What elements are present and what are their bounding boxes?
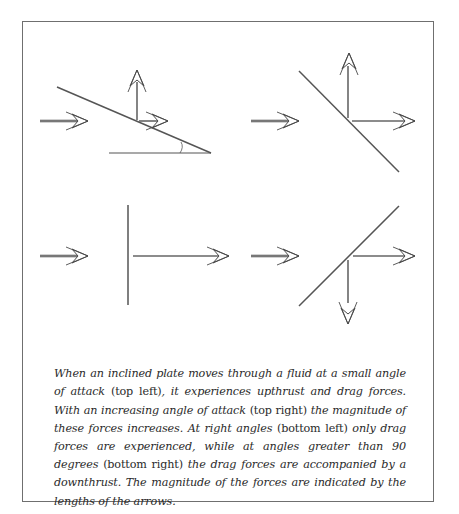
flow-arrow-icon [40,247,88,265]
drag-arrow-icon [353,247,415,265]
drag-arrow-icon [352,112,415,130]
upthrust-arrow-icon [128,70,146,120]
panel-top-right [251,53,415,172]
downthrust-arrow-icon [339,260,357,324]
flow-arrow-icon [251,112,299,130]
panel-top-left [40,70,211,153]
panel-bottom-left [40,205,229,305]
angle-arc [180,142,182,153]
flow-arrow-icon [251,247,299,265]
flow-arrow-icon [40,112,88,130]
drag-arrow-icon [133,247,229,265]
drag-arrow-icon [139,112,168,130]
upthrust-arrow-icon [340,53,358,118]
figure-caption: When an inclined plate moves through a f… [54,365,406,511]
panel-bottom-right [251,206,415,324]
